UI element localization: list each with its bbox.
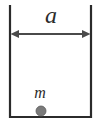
width-arrowhead-left-icon bbox=[11, 30, 20, 38]
mass-label: m bbox=[0, 85, 80, 101]
width-dimension-label: a bbox=[0, 3, 102, 27]
width-arrowhead-right-icon bbox=[82, 30, 91, 38]
physics-diagram-particle-in-box: a m bbox=[0, 0, 102, 127]
particle-dot-icon bbox=[36, 106, 46, 116]
